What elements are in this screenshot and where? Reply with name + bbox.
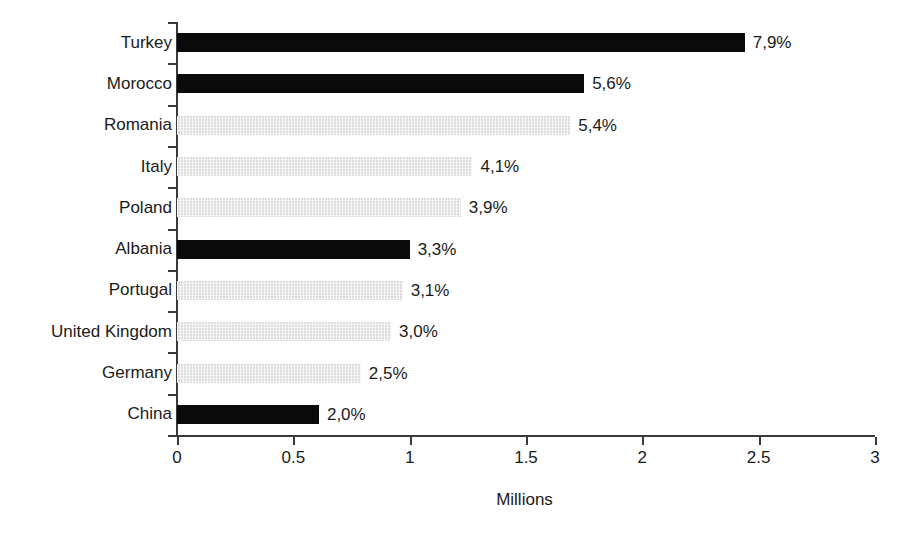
bar-value-label-turkey: 7,9%	[753, 33, 792, 52]
bar-value-label-poland: 3,9%	[469, 198, 508, 217]
bar-value-label-germany: 2,5%	[369, 364, 408, 383]
category-label-morocco: Morocco	[0, 75, 172, 92]
x-tick	[875, 437, 877, 445]
y-tick	[168, 146, 177, 148]
bar-morocco	[177, 74, 584, 93]
y-tick	[168, 63, 177, 65]
y-tick	[168, 394, 177, 396]
bar-portugal	[177, 281, 403, 300]
category-label-united-kingdom: United Kingdom	[0, 323, 172, 340]
x-tick	[410, 437, 412, 445]
y-tick	[168, 229, 177, 231]
x-tick-label: 0.5	[282, 448, 306, 467]
category-label-turkey: Turkey	[0, 34, 172, 51]
x-axis-title-text: Millions	[496, 490, 553, 509]
category-label-poland: Poland	[0, 199, 172, 216]
bar-value-label-morocco: 5,6%	[592, 74, 631, 93]
category-label-germany: Germany	[0, 364, 172, 381]
bar-chart: TurkeyMoroccoRomaniaItalyPolandAlbaniaPo…	[0, 0, 909, 538]
y-tick	[168, 435, 177, 437]
category-label-italy: Italy	[0, 158, 172, 175]
bar-germany	[177, 364, 361, 383]
x-tick-label: 1	[405, 448, 414, 467]
category-label-albania: Albania	[0, 240, 172, 257]
bar-value-label-portugal: 3,1%	[411, 281, 450, 300]
bar-value-label-italy: 4,1%	[480, 157, 519, 176]
category-label-china: China	[0, 405, 172, 422]
x-tick-label: 3	[870, 448, 879, 467]
bar-value-label-united-kingdom: 3,0%	[399, 322, 438, 341]
y-tick	[168, 352, 177, 354]
bar-romania	[177, 116, 570, 135]
x-tick	[526, 437, 528, 445]
x-tick	[177, 437, 179, 445]
x-tick-label: 0	[172, 448, 181, 467]
x-tick-label: 2.5	[747, 448, 771, 467]
bar-poland	[177, 198, 461, 217]
y-tick	[168, 187, 177, 189]
bar-china	[177, 405, 319, 424]
category-label-romania: Romania	[0, 116, 172, 133]
y-tick	[168, 22, 177, 24]
bar-value-label-romania: 5,4%	[578, 116, 617, 135]
x-tick	[642, 437, 644, 445]
bar-value-label-china: 2,0%	[327, 405, 366, 424]
bar-turkey	[177, 33, 745, 52]
x-tick	[293, 437, 295, 445]
y-tick	[168, 105, 177, 107]
bar-albania	[177, 240, 410, 259]
x-tick-label: 1.5	[514, 448, 538, 467]
bar-united-kingdom	[177, 322, 391, 341]
x-tick	[759, 437, 761, 445]
y-tick	[168, 311, 177, 313]
plot-area	[177, 22, 875, 435]
bar-value-label-albania: 3,3%	[418, 240, 457, 259]
y-tick	[168, 270, 177, 272]
x-axis-title: Millions	[0, 490, 909, 510]
bar-italy	[177, 157, 472, 176]
x-tick-label: 2	[638, 448, 647, 467]
category-label-portugal: Portugal	[0, 281, 172, 298]
